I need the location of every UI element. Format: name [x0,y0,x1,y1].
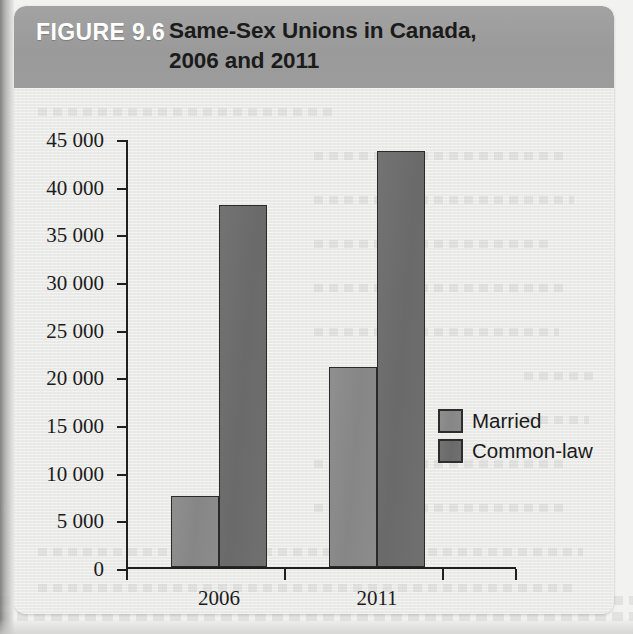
figure-number-label: FIGURE 9.6 [36,19,165,46]
y-axis-label: 40 000 [46,175,104,200]
y-axis-label: 45 000 [46,128,104,153]
y-axis-tick [117,378,127,380]
legend-label-common-law: Common-law [472,439,593,463]
y-axis-label: 5 000 [57,509,104,534]
y-axis-label: 25 000 [46,318,104,343]
figure-panel: FIGURE 9.6 Same-Sex Unions in Canada, 20… [14,6,614,614]
x-axis-line [126,567,516,569]
ghost-text-line [38,584,578,592]
y-axis-tick [117,283,127,285]
y-axis-label: 0 [94,557,105,582]
y-axis-label: 10 000 [46,461,104,486]
y-axis-label: 30 000 [46,271,104,296]
y-axis-tick [117,331,127,333]
bar-common-law-2006 [219,205,267,567]
scan-bottom-shadow [0,618,633,634]
figure-header-band: FIGURE 9.6 Same-Sex Unions in Canada, 20… [14,6,614,88]
x-axis-tick [442,569,444,580]
y-axis-tick [117,521,127,523]
legend-swatch-common-law [438,439,463,463]
chart-legend: Married Common-law [438,406,593,466]
x-axis-label-2006: 2006 [198,586,240,611]
legend-item-married: Married [438,406,593,436]
legend-label-married: Married [472,409,542,433]
y-axis-label: 20 000 [46,366,104,391]
legend-item-common-law: Common-law [438,436,593,466]
figure-title: Same-Sex Unions in Canada, 2006 and 2011 [169,16,599,76]
x-axis-tick [284,569,286,580]
ghost-text-line [524,372,594,380]
y-axis-tick [117,188,127,190]
chart-area: 05 00010 00015 00020 00025 00030 00035 0… [14,88,614,614]
x-axis-label-2011: 2011 [356,586,397,611]
bar-married-2011 [329,367,377,567]
x-axis-tick [515,569,517,580]
y-axis-label: 35 000 [46,223,104,248]
y-axis-tick [117,474,127,476]
figure-title-line-1: Same-Sex Unions in Canada, [169,18,477,43]
scan-edge-shadow [0,0,14,634]
ghost-text-line [38,108,338,116]
plot-region: 05 00010 00015 00020 00025 00030 00035 0… [126,140,514,569]
scanned-page: FIGURE 9.6 Same-Sex Unions in Canada, 20… [0,0,633,634]
bar-common-law-2011 [377,151,425,567]
y-axis-tick [117,140,127,142]
legend-swatch-married [438,409,463,433]
y-axis-label: 15 000 [46,414,104,439]
y-axis-tick [117,426,127,428]
y-axis-line [126,140,128,571]
y-axis-tick [117,235,127,237]
bar-married-2006 [171,496,219,567]
x-axis-tick [126,569,128,580]
figure-title-line-2: 2006 and 2011 [169,48,319,73]
